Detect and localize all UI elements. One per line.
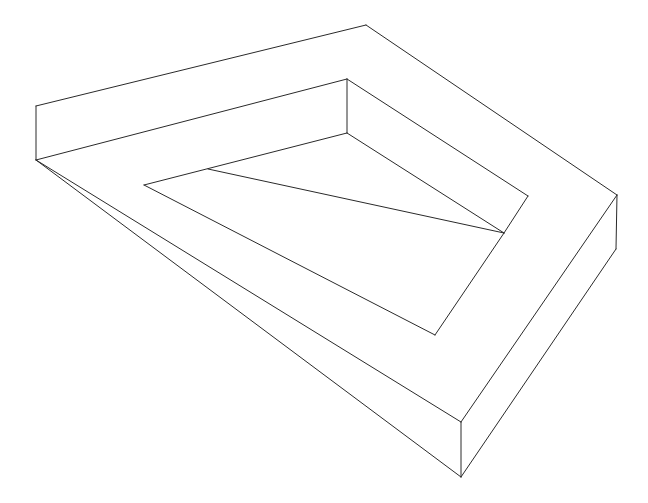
- edge-line: [616, 195, 617, 249]
- figure-edges: [36, 25, 617, 477]
- edge-line: [504, 196, 528, 233]
- edge-line: [36, 79, 347, 160]
- edge-line: [208, 169, 504, 233]
- edge-line: [36, 160, 461, 477]
- impossible-figure-drawing: [0, 0, 648, 503]
- edge-line: [347, 133, 504, 233]
- edge-line: [347, 79, 528, 196]
- edge-line: [36, 160, 461, 422]
- edge-line: [36, 25, 366, 106]
- edge-line: [144, 185, 435, 335]
- edge-line: [435, 233, 504, 335]
- edge-line: [461, 249, 616, 477]
